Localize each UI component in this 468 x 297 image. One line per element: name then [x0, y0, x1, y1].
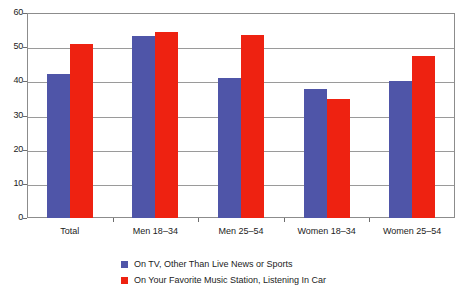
legend-item[interactable]: On TV, Other Than Live News or Sports — [0, 256, 468, 272]
y-tick-mark — [23, 47, 27, 48]
x-tick-mark — [284, 218, 285, 222]
bar-total-series-0 — [47, 74, 70, 218]
bar-men-18-34-series-1 — [155, 32, 178, 218]
y-axis: 0102030405060 — [0, 0, 23, 297]
y-tick-mark — [23, 81, 27, 82]
bar-chart: 0102030405060 TotalMen 18–34Men 25–54Wom… — [0, 0, 468, 297]
x-axis-ticks — [27, 218, 455, 223]
x-tick-label-women-18-34: Women 18–34 — [284, 226, 370, 237]
y-tick-label: 50 — [3, 42, 23, 51]
bar-men-25-54-series-1 — [241, 35, 264, 218]
y-tick-label: 0 — [3, 213, 23, 222]
x-tick-mark — [113, 218, 114, 222]
legend-label: On TV, Other Than Live News or Sports — [134, 259, 292, 269]
y-tick-label: 40 — [3, 76, 23, 85]
bar-men-25-54-series-0 — [218, 78, 241, 218]
legend-label: On Your Favorite Music Station, Listenin… — [134, 275, 326, 285]
bar-women-25-54-series-1 — [412, 56, 435, 218]
x-tick-mark — [198, 218, 199, 222]
bar-women-25-54-series-0 — [389, 81, 412, 218]
legend-swatch-icon — [121, 277, 128, 284]
x-tick-mark — [369, 218, 370, 222]
chart-legend: On TV, Other Than Live News or SportsOn … — [0, 256, 468, 288]
x-axis: TotalMen 18–34Men 25–54Women 18–34Women … — [27, 226, 455, 240]
bar-women-18-34-series-1 — [327, 99, 350, 218]
bar-men-18-34-series-0 — [132, 36, 155, 218]
legend-swatch-icon — [121, 261, 128, 268]
y-tick-mark — [23, 116, 27, 117]
y-tick-label: 10 — [3, 179, 23, 188]
y-tick-mark — [23, 184, 27, 185]
x-tick-label-total: Total — [27, 226, 113, 237]
y-tick-mark — [23, 13, 27, 14]
legend-item[interactable]: On Your Favorite Music Station, Listenin… — [0, 272, 468, 288]
x-tick-label-women-25-54: Women 25–54 — [369, 226, 455, 237]
y-tick-label: 20 — [3, 145, 23, 154]
x-tick-label-men-25-54: Men 25–54 — [198, 226, 284, 237]
bars-layer — [27, 13, 455, 218]
x-tick-label-men-18-34: Men 18–34 — [113, 226, 199, 237]
bar-total-series-1 — [70, 44, 93, 218]
y-tick-label: 60 — [3, 8, 23, 17]
y-tick-mark — [23, 218, 27, 219]
y-tick-mark — [23, 150, 27, 151]
y-tick-label: 30 — [3, 111, 23, 120]
bar-women-18-34-series-0 — [304, 89, 327, 218]
